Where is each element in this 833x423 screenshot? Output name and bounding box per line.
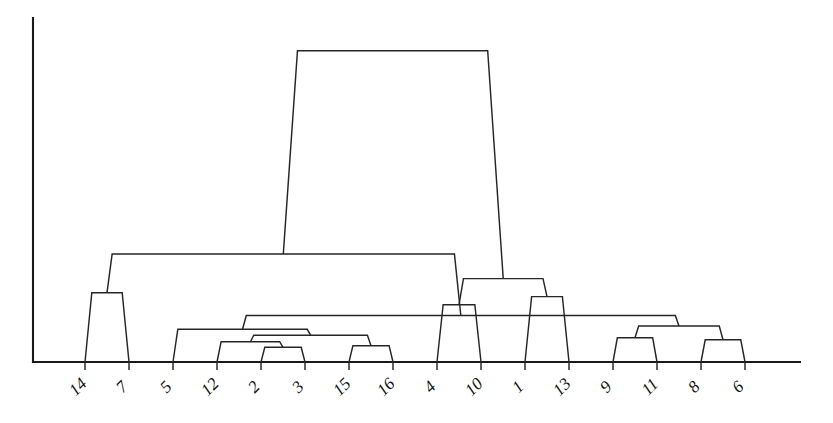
dendrogram-link [217,342,283,362]
dendrogram-figure: 14751223151641011391186 [0,0,833,423]
x-tick-label-2: 2 [244,377,264,397]
x-tick-label-3: 3 [287,377,307,397]
dendrogram-link [525,297,569,362]
dendrogram-link [261,347,305,362]
dendrogram-link [613,338,657,362]
x-tick-label-16: 16 [373,374,399,400]
x-tick-label-14: 14 [65,374,91,400]
x-tick-labels: 14751223151641011391186 [65,374,748,400]
dendrogram-link [243,316,679,330]
dendrogram-link [107,254,461,315]
dendrogram-link [459,279,547,305]
dendrogram-link [701,340,745,362]
dendrogram-link [250,335,371,345]
dendrogram-leaf-stems [85,362,745,370]
dendrogram-link [85,293,129,362]
x-tick-label-7: 7 [112,376,133,397]
x-tick-label-12: 12 [197,374,223,400]
x-tick-label-6: 6 [728,377,748,397]
dendrogram-link [437,305,481,362]
x-tick-label-9: 9 [596,377,616,397]
axes-group [33,18,800,362]
dendrogram-link [173,329,311,362]
dendrogram-link [349,346,393,362]
x-tick-label-4: 4 [420,377,440,397]
x-tick-label-1: 1 [508,377,527,396]
x-tick-label-5: 5 [156,377,175,396]
x-tick-label-11: 11 [638,375,663,400]
dendrogram-links [85,51,745,362]
x-tick-label-10: 10 [461,374,487,400]
x-tick-label-15: 15 [329,374,354,399]
x-tick-label-13: 13 [549,374,574,399]
dendrogram-link [283,51,503,279]
dendrogram-plot: 14751223151641011391186 [0,0,833,423]
x-tick-label-8: 8 [684,377,704,397]
